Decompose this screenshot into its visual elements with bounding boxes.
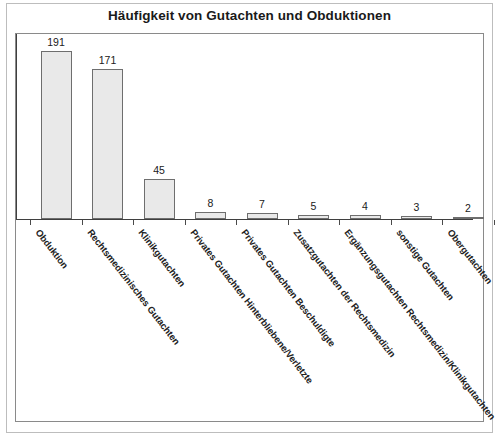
bar	[350, 215, 381, 219]
bar-value-label: 191	[31, 36, 81, 48]
plot-area: 19117145875432 ObduktionRechtsmedizinisc…	[16, 34, 483, 421]
bar	[298, 215, 329, 219]
x-axis-tick	[339, 220, 340, 225]
x-axis-tick	[82, 220, 83, 225]
x-axis-tick	[133, 220, 134, 225]
bar-value-label: 7	[237, 198, 287, 210]
bar-value-label: 171	[83, 54, 133, 66]
bar	[41, 51, 72, 219]
x-axis-tick	[236, 220, 237, 225]
bar-value-label: 4	[340, 200, 390, 212]
bar	[92, 69, 123, 219]
x-axis-tick	[30, 220, 31, 225]
x-axis-category-label: Klinikgutachten	[136, 227, 188, 289]
bar-value-label: 45	[134, 164, 184, 176]
y-axis-line	[16, 34, 17, 220]
x-axis-category-label: Privates Gutachten Beschuldigte	[239, 227, 337, 349]
bar	[453, 217, 484, 219]
x-axis-tick	[185, 220, 186, 225]
bar-value-label: 3	[392, 201, 442, 213]
bar-value-label: 5	[289, 200, 339, 212]
chart-screenshot: Häufigkeit von Gutachten und Obduktionen…	[0, 0, 500, 439]
bar-value-label: 8	[186, 197, 236, 209]
bar	[401, 216, 432, 219]
x-axis-tick	[288, 220, 289, 225]
x-axis-line	[16, 219, 473, 220]
bar-value-label: 2	[443, 202, 493, 214]
x-axis-category-label: Rechtsmedizinisches Gutachten	[85, 227, 182, 347]
x-axis-category-label: Zusatzgutachten der Rechtsmedizin	[291, 227, 398, 359]
chart-title: Häufigkeit von Gutachten und Obduktionen	[6, 8, 493, 23]
x-axis-tick	[494, 220, 495, 225]
bar	[144, 179, 175, 219]
x-axis-tick	[391, 220, 392, 225]
bar	[247, 213, 278, 219]
x-axis-tick	[442, 220, 443, 225]
bar	[195, 212, 226, 219]
x-axis-category-label: Obduktion	[33, 227, 70, 270]
x-axis-category-label: sonstige Gutachten	[394, 227, 456, 302]
